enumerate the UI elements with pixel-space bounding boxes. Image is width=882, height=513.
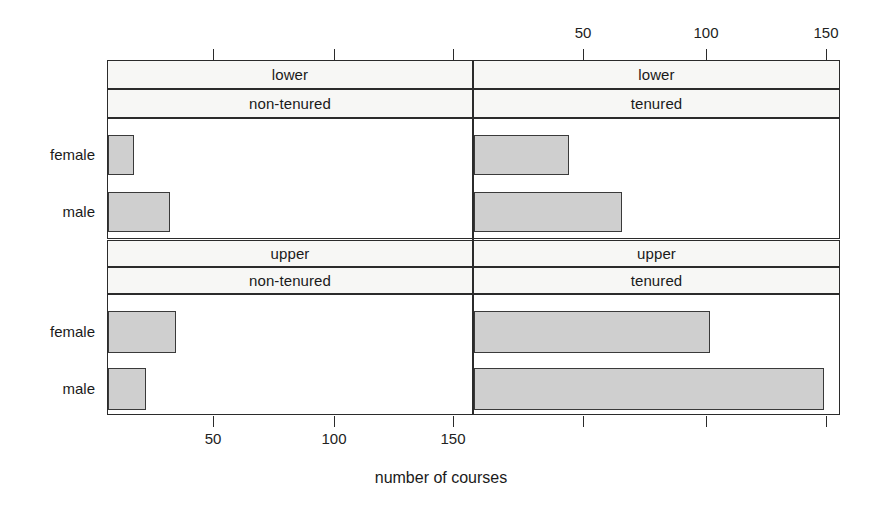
top-axis-tick-right-2 <box>706 49 707 60</box>
bar-upper-non-tenured-female <box>108 311 176 353</box>
strip-lower-right-top: lower <box>473 60 840 89</box>
strip-tenured-right-2: tenured <box>473 267 840 294</box>
panel-center-divider <box>472 60 474 415</box>
top-axis-tick-label-150: 150 <box>813 24 838 41</box>
bottom-axis-tick-label-150: 150 <box>440 430 465 447</box>
strip-label: tenured <box>631 272 683 289</box>
strip-lower-left-top: lower <box>107 60 473 89</box>
row-label-lower-male: male <box>0 203 95 220</box>
bar-lower-non-tenured-male <box>108 192 170 232</box>
row-label-upper-female: female <box>0 323 95 340</box>
strip-non-tenured-left: non-tenured <box>107 89 473 118</box>
bottom-axis-tick-right-3 <box>826 416 827 427</box>
panel-upper-non-tenured <box>107 294 473 415</box>
strip-upper-left-top: upper <box>107 240 473 267</box>
top-axis-tick-label-50: 50 <box>575 24 592 41</box>
bar-lower-non-tenured-female <box>108 135 134 175</box>
strip-label: non-tenured <box>249 95 331 112</box>
panel-lower-non-tenured <box>107 118 473 239</box>
bottom-axis-tick-label-100: 100 <box>321 430 346 447</box>
strip-label: upper <box>637 245 676 262</box>
strip-label: tenured <box>631 95 683 112</box>
strip-label: upper <box>271 245 310 262</box>
x-axis-title: number of courses <box>0 469 882 487</box>
row-label-upper-male: male <box>0 380 95 397</box>
top-axis-tick-left-3 <box>453 49 454 60</box>
top-axis-tick-left-1 <box>213 49 214 60</box>
strip-label: lower <box>272 66 308 83</box>
top-axis-tick-right-3 <box>826 49 827 60</box>
top-axis-tick-label-100: 100 <box>693 24 718 41</box>
strip-tenured-right: tenured <box>473 89 840 118</box>
panel-upper-tenured <box>473 294 840 415</box>
strip-label: lower <box>638 66 674 83</box>
bar-lower-tenured-male <box>474 192 622 232</box>
bar-upper-tenured-female <box>474 311 710 353</box>
top-axis-tick-left-2 <box>334 49 335 60</box>
bottom-axis-tick-left-3 <box>453 416 454 427</box>
bottom-axis-tick-right-1 <box>583 416 584 427</box>
bottom-axis-tick-right-2 <box>706 416 707 427</box>
strip-non-tenured-left-2: non-tenured <box>107 267 473 294</box>
row-label-lower-female: female <box>0 146 95 163</box>
bar-upper-tenured-male <box>474 368 824 410</box>
bottom-axis-tick-left-2 <box>334 416 335 427</box>
chart-canvas: 50 100 150 lower lower non-tenured tenur… <box>0 0 882 513</box>
bottom-axis-tick-left-1 <box>213 416 214 427</box>
strip-upper-right-top: upper <box>473 240 840 267</box>
bar-upper-non-tenured-male <box>108 368 146 410</box>
strip-label: non-tenured <box>249 272 331 289</box>
top-axis-tick-right-1 <box>583 49 584 60</box>
panel-lower-tenured <box>473 118 840 239</box>
bar-lower-tenured-female <box>474 135 569 175</box>
bottom-axis-tick-label-50: 50 <box>205 430 222 447</box>
